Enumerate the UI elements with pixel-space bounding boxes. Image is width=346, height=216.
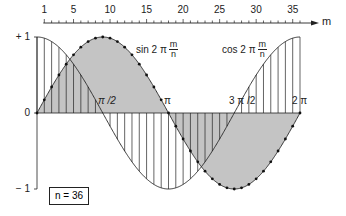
- sine-data-point: [131, 53, 134, 56]
- sine-data-point: [79, 46, 82, 49]
- sine-data-point: [218, 183, 221, 186]
- y-label-minus-one: − 1: [4, 184, 30, 194]
- sine-data-point: [211, 177, 214, 180]
- sine-data-point: [43, 98, 46, 101]
- sine-data-point: [152, 86, 155, 89]
- top-tick-label: 5: [71, 5, 77, 15]
- sine-data-point: [145, 74, 148, 77]
- sine-data-point: [72, 53, 75, 56]
- sine-data-point: [284, 138, 287, 141]
- sine-data-point: [87, 40, 90, 43]
- top-m-axis: [43, 19, 319, 26]
- sine-data-point: [167, 112, 170, 115]
- cosine-fraction: m n: [258, 40, 268, 59]
- sine-data-point: [36, 112, 39, 115]
- top-tick-label: 25: [214, 5, 225, 15]
- sine-data-point: [182, 138, 185, 141]
- sine-data-point: [109, 37, 112, 40]
- sine-data-point: [196, 160, 199, 163]
- top-axis-arrow-icon: [311, 21, 319, 26]
- y-label-plus-one: + 1: [4, 32, 30, 42]
- sine-label-prefix: sin 2 π: [136, 44, 167, 55]
- top-tick-label: 10: [104, 5, 115, 15]
- phase-label-three-pi-half: 3 π /2: [229, 96, 255, 106]
- cosine-function-label: cos 2 π m n: [222, 40, 267, 59]
- sine-function-label: sin 2 π m n: [136, 40, 178, 59]
- phase-label-pi-half: π /2: [98, 96, 116, 106]
- top-tick-label: 1: [42, 5, 48, 15]
- sine-data-point: [247, 183, 250, 186]
- top-tick-label: 20: [178, 5, 189, 15]
- sine-data-point: [233, 188, 236, 191]
- sine-data-point: [101, 36, 104, 39]
- n-value-box: n = 36: [49, 187, 89, 205]
- top-tick-label: 15: [141, 5, 152, 15]
- y-label-zero: 0: [4, 108, 30, 118]
- sine-data-point: [160, 98, 163, 101]
- sine-fraction: m n: [169, 40, 179, 59]
- sine-data-point: [58, 74, 61, 77]
- sine-fraction-denominator: n: [171, 50, 176, 59]
- sine-data-point: [116, 40, 119, 43]
- sine-cosine-chart: [0, 0, 346, 216]
- sine-data-point: [240, 186, 243, 189]
- cosine-fraction-denominator: n: [260, 50, 265, 59]
- phase-label-two-pi: 2 π: [292, 96, 307, 106]
- sine-data-point: [204, 170, 207, 173]
- sine-data-point: [94, 37, 97, 40]
- sine-data-point: [123, 46, 126, 49]
- sine-data-point: [138, 63, 141, 66]
- sine-data-point: [269, 160, 272, 163]
- top-tick-label: 30: [251, 5, 262, 15]
- cosine-label-prefix: cos 2 π: [222, 44, 256, 55]
- sine-data-point: [226, 186, 229, 189]
- sine-data-point: [255, 177, 258, 180]
- sine-data-point: [189, 150, 192, 153]
- sine-data-point: [291, 125, 294, 128]
- sine-data-point: [174, 125, 177, 128]
- top-tick-label: 35: [287, 5, 298, 15]
- m-axis-label: m: [322, 16, 331, 27]
- phase-label-pi: π: [164, 96, 171, 106]
- sine-data-point: [50, 86, 53, 89]
- sine-data-point: [299, 112, 302, 115]
- sine-data-point: [277, 150, 280, 153]
- sine-data-point: [65, 63, 68, 66]
- sine-data-point: [262, 170, 265, 173]
